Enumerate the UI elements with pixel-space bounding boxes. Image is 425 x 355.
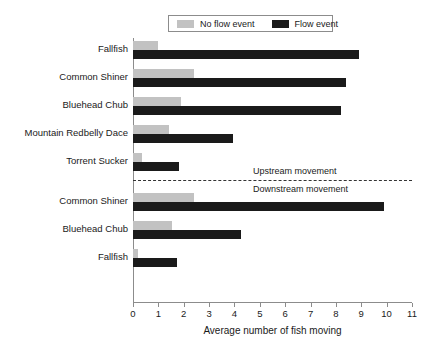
x-axis-tick-label: 1 [148,308,168,319]
x-axis-tick [209,303,210,307]
bar-no-flow-event [133,153,142,162]
bar-chart: No flow event Flow event FallfishCommon … [0,0,425,355]
y-axis-category-label: Bluehead Chub [0,99,128,110]
x-axis-tick [412,303,413,307]
legend-entry-flow-event: Flow event [272,19,339,29]
y-axis-category-label: Fallfish [0,43,128,54]
x-axis-tick-label: 7 [301,308,321,319]
x-axis-tick [311,303,312,307]
x-axis-tick [260,303,261,307]
bar-no-flow-event [133,125,169,134]
bar-no-flow-event [133,193,194,202]
x-axis-tick-label: 11 [402,308,422,319]
legend-entry-no-flow-event: No flow event [177,19,255,29]
y-axis-category-label: Torrent Sucker [0,155,128,166]
bar-no-flow-event [133,249,138,258]
legend-label-flow-event: Flow event [295,19,339,29]
bar-flow-event [133,78,346,87]
x-axis-tick [158,303,159,307]
y-axis-category-label: Common Shiner [0,195,128,206]
bar-no-flow-event [133,41,158,50]
bar-flow-event [133,230,241,239]
x-axis-tick-label: 3 [199,308,219,319]
bar-flow-event [133,202,384,211]
bar-flow-event [133,162,179,171]
x-axis-title: Average number of fish moving [133,325,412,336]
chart-legend: No flow event Flow event [168,15,333,32]
x-axis-tick [361,303,362,307]
x-axis-tick [184,303,185,307]
x-axis-tick-label: 10 [377,308,397,319]
x-axis-tick [285,303,286,307]
x-axis-tick-label: 9 [351,308,371,319]
bar-no-flow-event [133,97,181,106]
bar-no-flow-event [133,69,194,78]
movement-divider-line [133,180,412,181]
x-axis-tick [387,303,388,307]
y-axis-category-label: Mountain Redbelly Dace [0,127,128,138]
x-axis-tick [234,303,235,307]
x-axis-line [133,302,412,303]
downstream-movement-label: Downstream movement [253,184,348,194]
x-axis-tick-label: 0 [123,308,143,319]
legend-label-no-flow-event: No flow event [200,19,255,29]
legend-swatch-flow-event [272,20,289,28]
bar-no-flow-event [133,221,172,230]
x-axis-tick-label: 4 [224,308,244,319]
upstream-movement-label: Upstream movement [253,166,337,176]
bar-flow-event [133,258,177,267]
y-axis-category-label: Bluehead Chub [0,223,128,234]
legend-swatch-no-flow-event [177,20,194,28]
bar-flow-event [133,106,341,115]
x-axis-tick [133,303,134,307]
x-axis-tick-label: 5 [250,308,270,319]
bar-flow-event [133,134,233,143]
y-axis-category-label: Fallfish [0,251,128,262]
x-axis-tick-label: 6 [275,308,295,319]
y-axis-category-label: Common Shiner [0,71,128,82]
x-axis-tick [336,303,337,307]
bar-flow-event [133,50,359,59]
x-axis-tick-label: 8 [326,308,346,319]
x-axis-tick-label: 2 [174,308,194,319]
